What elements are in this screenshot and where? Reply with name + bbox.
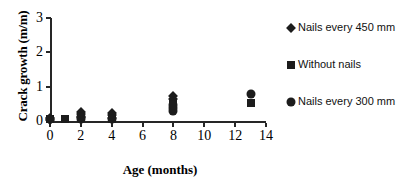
x-tick xyxy=(265,123,267,127)
y-tick-label: 0 xyxy=(36,114,43,128)
square-marker-icon xyxy=(285,59,296,70)
y-axis-title: Crack growth (m/m) xyxy=(15,0,31,141)
x-tick-label: 10 xyxy=(197,129,211,143)
x-tick-label: 2 xyxy=(77,129,84,143)
x-tick-label: 4 xyxy=(108,129,115,143)
y-tick-label: 3 xyxy=(36,11,43,25)
x-tick-label: 14 xyxy=(259,129,273,143)
y-tick xyxy=(46,86,51,88)
data-point xyxy=(46,115,55,124)
x-tick-label: 12 xyxy=(228,129,242,143)
y-tick xyxy=(46,51,51,53)
data-point xyxy=(107,115,116,124)
data-point xyxy=(61,115,69,123)
y-tick-label: 2 xyxy=(36,45,43,59)
x-tick xyxy=(234,123,236,127)
data-point xyxy=(169,101,178,110)
legend-item: Without nails xyxy=(285,59,361,70)
legend-item: Nails every 300 mm xyxy=(285,96,395,107)
legend-item-label: Nails every 300 mm xyxy=(298,96,395,107)
data-point xyxy=(76,112,85,121)
chart-figure: Crack growth (m/m) 0123 02468101214 Age … xyxy=(0,0,414,193)
y-tick xyxy=(46,17,51,19)
data-point xyxy=(247,99,255,107)
x-tick-label: 0 xyxy=(47,129,54,143)
data-point xyxy=(246,89,255,98)
diamond-marker-icon xyxy=(285,22,296,33)
x-tick-label: 6 xyxy=(139,129,146,143)
legend-item: Nails every 450 mm xyxy=(285,22,395,33)
y-tick-label: 1 xyxy=(36,80,43,94)
x-tick-label: 8 xyxy=(170,129,177,143)
plot-area: 0123 02468101214 xyxy=(50,18,266,123)
legend-item-label: Nails every 450 mm xyxy=(298,22,395,33)
x-axis-title: Age (months) xyxy=(40,162,280,178)
x-tick xyxy=(203,123,205,127)
legend-item-label: Without nails xyxy=(298,59,361,70)
y-axis-line xyxy=(50,18,52,123)
x-tick xyxy=(142,123,144,127)
circle-marker-icon xyxy=(285,96,296,107)
x-tick xyxy=(172,123,174,127)
